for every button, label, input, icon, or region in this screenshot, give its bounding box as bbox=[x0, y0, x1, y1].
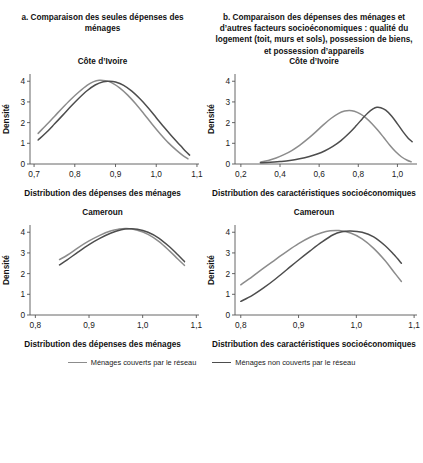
svg-text:0: 0 bbox=[20, 310, 25, 320]
figure-density-comparisons: a. Comparaison des seules dépenses des m… bbox=[0, 0, 423, 463]
legend-label: Ménages non couverts par le réseau bbox=[235, 358, 355, 367]
plot-area: 012340,80,91,01,1Densité bbox=[205, 219, 423, 339]
panel-titles: a. Comparaison des seules dépenses des m… bbox=[0, 0, 423, 57]
legend-item-not-covered: Ménages non couverts par le réseau bbox=[212, 358, 355, 367]
svg-text:3: 3 bbox=[225, 248, 230, 258]
svg-text:0,9: 0,9 bbox=[83, 320, 95, 330]
x-axis-caption: Distribution des caractéristiques socioé… bbox=[205, 189, 423, 200]
svg-text:0,8: 0,8 bbox=[353, 168, 365, 178]
svg-text:0: 0 bbox=[225, 159, 230, 169]
svg-text:2: 2 bbox=[20, 269, 25, 279]
svg-text:2: 2 bbox=[225, 117, 230, 127]
panel-a-title: a. Comparaison des seules dépenses des m… bbox=[0, 12, 205, 57]
svg-text:1: 1 bbox=[225, 290, 230, 300]
plot-area: 012340,70,80,91,01,1Densité bbox=[0, 68, 205, 188]
chart-title: Cameroun bbox=[205, 208, 423, 217]
density-plot-svg: 012340,70,80,91,01,1Densité bbox=[0, 68, 205, 188]
charts-row-bottom: Cameroun 012340,80,91,01,1Densité Distri… bbox=[0, 208, 423, 351]
svg-text:1: 1 bbox=[225, 138, 230, 148]
svg-text:0: 0 bbox=[225, 310, 230, 320]
plot-area: 012340,80,91,01,1Densité bbox=[0, 219, 205, 339]
svg-text:1: 1 bbox=[20, 138, 25, 148]
chart-cote-divoire-caracteristiques: Côte d’Ivoire 012340,20,40,60,81,0Densit… bbox=[205, 57, 423, 200]
svg-text:Densité: Densité bbox=[206, 255, 216, 285]
svg-text:0,2: 0,2 bbox=[235, 168, 247, 178]
panel-b-title: b. Comparaison des dépenses des ménages … bbox=[205, 12, 423, 57]
svg-text:3: 3 bbox=[20, 248, 25, 258]
legend-line-icon-covered bbox=[68, 362, 87, 363]
plot-area: 012340,20,40,60,81,0Densité bbox=[205, 68, 423, 188]
svg-text:1,0: 1,0 bbox=[392, 168, 404, 178]
svg-text:0,6: 0,6 bbox=[313, 168, 325, 178]
density-plot-svg: 012340,80,91,01,1Densité bbox=[205, 219, 423, 339]
x-axis-caption: Distribution des caractéristiques socioé… bbox=[205, 340, 423, 351]
legend: Ménages couverts par le réseau Ménages n… bbox=[0, 358, 423, 367]
density-plot-svg: 012340,80,91,01,1Densité bbox=[0, 219, 205, 339]
svg-text:1,1: 1,1 bbox=[408, 320, 420, 330]
svg-text:2: 2 bbox=[20, 117, 25, 127]
svg-text:0,7: 0,7 bbox=[28, 168, 40, 178]
svg-text:1,1: 1,1 bbox=[191, 168, 203, 178]
svg-text:4: 4 bbox=[20, 227, 25, 237]
svg-text:1: 1 bbox=[20, 290, 25, 300]
svg-text:Densité: Densité bbox=[206, 103, 216, 133]
chart-title: Côte d’Ivoire bbox=[0, 57, 205, 66]
svg-text:0: 0 bbox=[20, 159, 25, 169]
chart-title: Cameroun bbox=[0, 208, 205, 217]
svg-text:0,8: 0,8 bbox=[30, 320, 42, 330]
legend-item-covered: Ménages couverts par le réseau bbox=[68, 358, 197, 367]
x-axis-caption: Distribution des dépenses des ménages bbox=[0, 340, 205, 351]
svg-text:0,8: 0,8 bbox=[69, 168, 81, 178]
svg-text:0,9: 0,9 bbox=[110, 168, 122, 178]
chart-title: Côte d’Ivoire bbox=[205, 57, 423, 66]
chart-cote-divoire-depenses: Côte d’Ivoire 012340,70,80,91,01,1Densit… bbox=[0, 57, 205, 200]
legend-line-icon-not-covered bbox=[212, 362, 231, 363]
svg-text:4: 4 bbox=[225, 227, 230, 237]
svg-text:3: 3 bbox=[225, 97, 230, 107]
legend-label: Ménages couverts par le réseau bbox=[91, 358, 197, 367]
svg-text:1,0: 1,0 bbox=[150, 168, 162, 178]
chart-cameroun-caracteristiques: Cameroun 012340,80,91,01,1Densité Distri… bbox=[205, 208, 423, 351]
charts-row-top: Côte d’Ivoire 012340,70,80,91,01,1Densit… bbox=[0, 57, 423, 200]
svg-text:0,8: 0,8 bbox=[235, 320, 247, 330]
svg-text:4: 4 bbox=[225, 76, 230, 86]
svg-text:1,0: 1,0 bbox=[351, 320, 363, 330]
svg-text:Densité: Densité bbox=[1, 255, 11, 285]
svg-text:4: 4 bbox=[20, 76, 25, 86]
svg-text:2: 2 bbox=[225, 269, 230, 279]
x-axis-caption: Distribution des dépenses des ménages bbox=[0, 189, 205, 200]
svg-text:Densité: Densité bbox=[1, 103, 11, 133]
chart-cameroun-depenses: Cameroun 012340,80,91,01,1Densité Distri… bbox=[0, 208, 205, 351]
svg-text:0,9: 0,9 bbox=[293, 320, 305, 330]
density-plot-svg: 012340,20,40,60,81,0Densité bbox=[205, 68, 423, 188]
svg-text:0,4: 0,4 bbox=[274, 168, 286, 178]
svg-text:3: 3 bbox=[20, 97, 25, 107]
svg-text:1,0: 1,0 bbox=[137, 320, 149, 330]
svg-text:1,1: 1,1 bbox=[191, 320, 203, 330]
